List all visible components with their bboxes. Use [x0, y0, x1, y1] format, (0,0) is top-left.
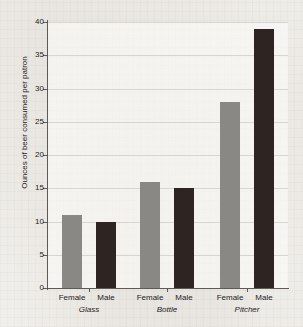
gridline: [48, 122, 288, 123]
gridline: [48, 155, 288, 156]
bar-pitcher-male: [254, 29, 274, 288]
bar-glass-female: [62, 215, 82, 288]
x-axis-line: [47, 288, 289, 289]
gridline: [48, 22, 288, 23]
bar-bottle-female: [140, 182, 160, 288]
x-tick-mark: [167, 288, 168, 292]
y-tick-label: 0: [22, 284, 44, 292]
bar-glass-male: [96, 222, 116, 289]
gridline: [48, 255, 288, 256]
y-tick-label: 5: [22, 251, 44, 259]
group-label-pitcher: Pitcher: [207, 305, 287, 314]
gridline: [48, 188, 288, 189]
x-label-male: Male: [162, 293, 206, 302]
gridline: [48, 222, 288, 223]
x-label-male: Male: [242, 293, 286, 302]
bar-chart: 4035302520151050 Ounces of beer consumed…: [0, 0, 303, 327]
x-tick-mark: [247, 288, 248, 292]
bar-bottle-male: [174, 188, 194, 288]
plot-area: [48, 22, 288, 288]
y-axis-title: Ounces of beer consumed per patron: [20, 23, 29, 223]
bar-pitcher-female: [220, 102, 240, 288]
x-tick-mark: [89, 288, 90, 292]
group-label-bottle: Bottle: [127, 305, 207, 314]
x-label-male: Male: [84, 293, 128, 302]
group-label-glass: Glass: [49, 305, 129, 314]
gridline: [48, 89, 288, 90]
gridline: [48, 55, 288, 56]
